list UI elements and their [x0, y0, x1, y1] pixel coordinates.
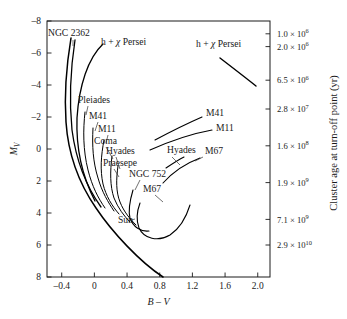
annotation-m67-lower: M67	[143, 183, 161, 194]
right-tick-label: 1.6 × 108	[277, 139, 309, 151]
x-tick-label: 2.0	[252, 281, 264, 291]
y-tick-label: 2	[36, 176, 41, 186]
hr-diagram-figure: –0.400.40.81.21.62.0 –8–6–4–202468 1.0 ×…	[0, 0, 347, 319]
y-tick-label: 0	[36, 144, 41, 154]
annotation-m11-right: M11	[216, 122, 234, 133]
y-tick-label: –6	[31, 48, 42, 58]
annotation-h-chi-persei-right: h + χ Persei	[196, 38, 241, 49]
annotation-sun: Sun	[118, 214, 133, 225]
y-tick-label: 4	[36, 208, 41, 218]
x-tick-label: 1.2	[186, 281, 198, 291]
right-tick-label: 7.1 × 109	[277, 213, 309, 225]
right-tick-label: 2.8 × 107	[277, 103, 309, 115]
right-axis-title: Cluster age at turn-off point (yr)	[328, 75, 340, 211]
annotation-hyades-left: Hyades	[106, 145, 135, 156]
annotation-ngc-2362: NGC 2362	[48, 27, 90, 38]
y-tick-label: –2	[31, 112, 42, 122]
color-magnitude-diagram: –0.400.40.81.21.62.0 –8–6–4–202468 1.0 ×…	[0, 0, 347, 319]
x-tick-label: 0.4	[121, 281, 133, 291]
right-tick-label: 1.0 × 106	[277, 27, 309, 39]
annotation-praesepe: Praesepe	[103, 157, 137, 168]
annotation-m41-right: M41	[206, 107, 224, 118]
y-tick-label: –4	[31, 80, 42, 90]
annotation-hyades-right: Hyades	[167, 144, 196, 155]
annotation-m67-right: M67	[205, 145, 223, 156]
annotation-m41-left: M41	[89, 110, 107, 121]
x-tick-label: –0.4	[52, 281, 70, 291]
right-tick-label: 2.0 × 106	[277, 40, 309, 52]
y-tick-label: 6	[36, 240, 41, 250]
right-tick-label: 1.9 × 109	[277, 176, 309, 188]
annotation-h-chi-persei-left: h + χ Persei	[101, 36, 146, 47]
right-tick-label: 6.5 × 106	[277, 74, 309, 86]
annotation-pleiades: Pleiades	[78, 94, 110, 105]
annotation-ngc-752: NGC 752	[129, 168, 166, 179]
x-tick-label: 0.8	[154, 281, 166, 291]
x-tick-label: 1.6	[219, 281, 231, 291]
x-axis-title: B – V	[147, 296, 171, 307]
y-tick-label: –8	[31, 16, 42, 26]
x-tick-label: 0	[92, 281, 97, 291]
annotation-m11-left: M11	[98, 123, 116, 134]
y-tick-label: 8	[36, 272, 41, 282]
